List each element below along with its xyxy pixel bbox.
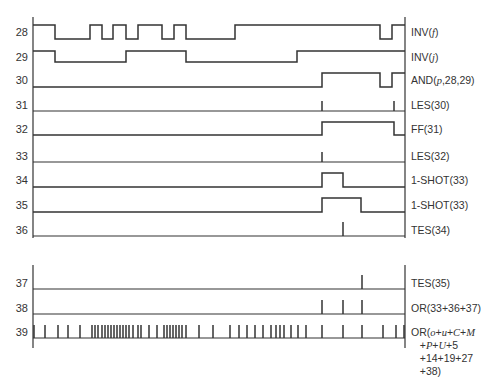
waveform-line <box>33 51 405 62</box>
signal-label: OR(33+36+37) <box>411 302 481 315</box>
signal-37 <box>33 275 405 289</box>
signal-label: TES(34) <box>411 224 450 237</box>
signal-label: TES(35) <box>411 277 450 290</box>
signal-35 <box>33 198 405 212</box>
waveform-line <box>33 198 405 212</box>
waveform-line <box>33 25 405 39</box>
signal-label: 1-SHOT(33) <box>411 174 468 187</box>
signal-label: AND(p,28,29) <box>411 74 475 87</box>
signal-33 <box>33 152 405 162</box>
signal-label: LES(32) <box>411 150 450 163</box>
signal-label: 1-SHOT(33) <box>411 199 468 212</box>
signal-38 <box>33 300 405 314</box>
signal-32 <box>33 122 405 135</box>
row-number: 29 <box>0 51 28 63</box>
row-number: 39 <box>0 326 28 338</box>
waveform-line <box>33 173 405 187</box>
signal-label: LES(30) <box>411 99 450 112</box>
signal-label: INV(f) <box>411 26 438 39</box>
signal-28 <box>33 25 405 39</box>
signal-36 <box>33 222 405 236</box>
signal-label: INV(j) <box>411 51 438 64</box>
row-number: 30 <box>0 74 28 86</box>
signal-34 <box>33 173 405 187</box>
signal-29 <box>33 51 405 62</box>
row-number: 34 <box>0 174 28 186</box>
signal-30 <box>33 73 405 87</box>
axes <box>33 17 405 348</box>
row-number: 31 <box>0 99 28 111</box>
row-number: 35 <box>0 199 28 211</box>
signal-39 <box>33 325 405 338</box>
signal-31 <box>33 101 405 111</box>
signal-label: OR(o+u+C+M +P+U+5 +14+19+27 +38) <box>411 326 475 378</box>
signal-label: FF(31) <box>411 123 443 136</box>
row-number: 38 <box>0 302 28 314</box>
row-number: 37 <box>0 277 28 289</box>
row-number: 33 <box>0 150 28 162</box>
waveform-line <box>33 73 405 87</box>
waveforms <box>33 25 405 338</box>
row-number: 28 <box>0 26 28 38</box>
waveform-line <box>33 122 405 135</box>
row-number: 36 <box>0 224 28 236</box>
row-number: 32 <box>0 123 28 135</box>
